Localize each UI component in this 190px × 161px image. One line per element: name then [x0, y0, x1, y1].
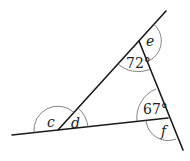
label-f: f — [160, 123, 169, 139]
label-angle-67: 67° — [143, 101, 168, 117]
label-d: d — [71, 115, 80, 131]
label-e: e — [146, 33, 154, 49]
line-bottom — [12, 118, 168, 135]
triangle-angle-diagram: c d e f 72° 67° — [0, 0, 190, 161]
label-c: c — [47, 114, 55, 130]
label-angle-72: 72° — [126, 55, 151, 71]
